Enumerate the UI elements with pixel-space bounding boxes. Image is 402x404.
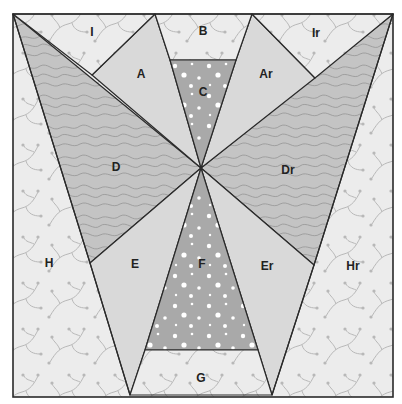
label-Er: Er [261,259,274,273]
label-A: A [137,67,146,81]
label-H: H [45,256,54,270]
label-B: B [199,24,208,38]
label-E: E [131,257,139,271]
label-Dr: Dr [281,163,295,177]
label-Ar: Ar [259,67,273,81]
label-F: F [198,257,205,271]
label-Ir: Ir [312,26,320,40]
label-D: D [112,160,121,174]
quilt-block-diagram: I B Ir A C Ar D Dr H E F Er Hr G [0,0,402,404]
label-Hr: Hr [346,259,360,273]
label-G: G [196,371,205,385]
label-C: C [199,85,208,99]
label-I: I [90,25,93,39]
